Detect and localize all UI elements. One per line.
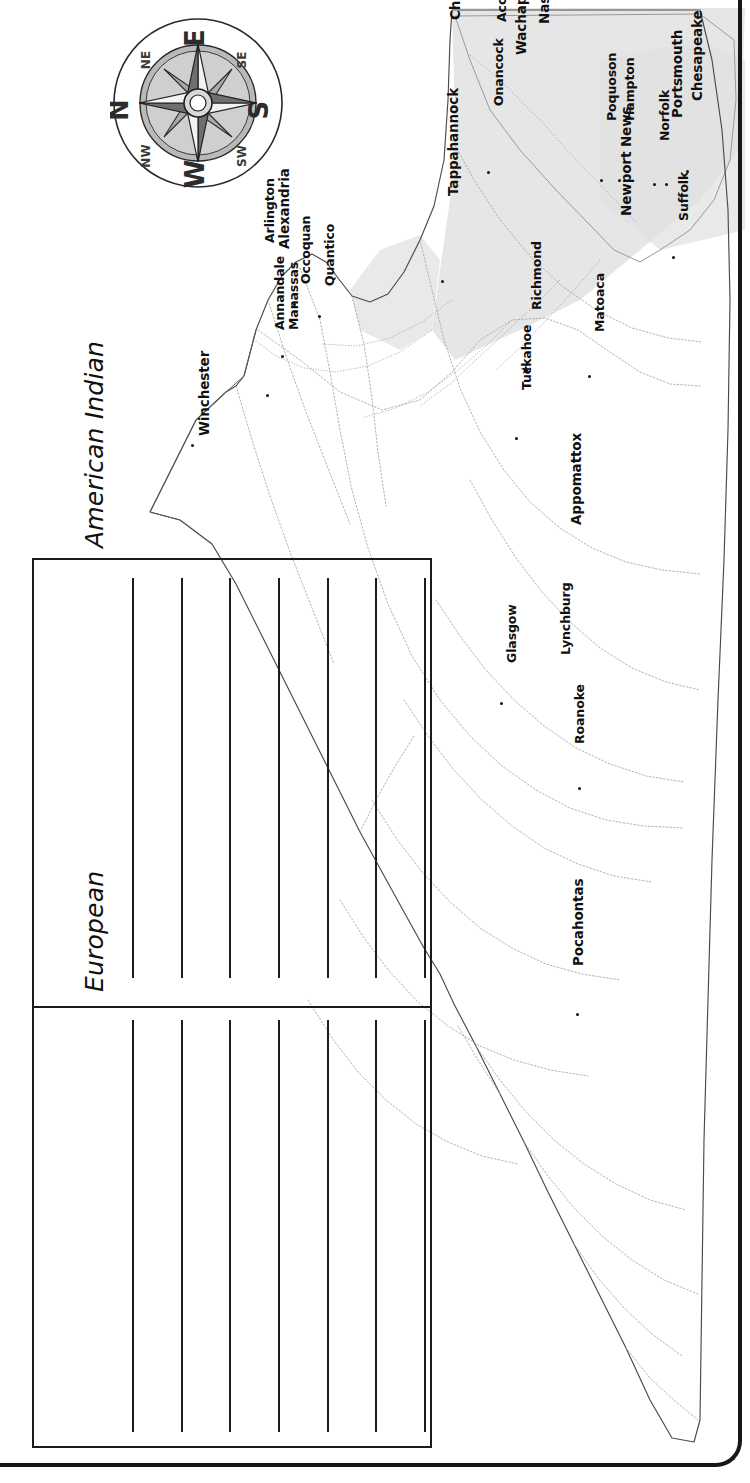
- vocabulary-answer-box[interactable]: American Indian European: [32, 558, 432, 1448]
- compass-label-e: E: [180, 29, 210, 47]
- city-label-occoquan: Occoquan: [298, 216, 313, 284]
- city-marker-dot: [576, 1013, 579, 1016]
- city-label-appomattox: Appomattox: [568, 433, 584, 525]
- compass-label-s: S: [244, 101, 274, 120]
- city-label-poquoson: Poquoson: [604, 53, 619, 121]
- city-label-lynchburg: Lynchburg: [558, 582, 573, 655]
- writing-line-european-3[interactable]: [229, 1020, 231, 1432]
- compass-rose: N E S W NE SE SW NW: [110, 14, 286, 192]
- city-label-accomac: Accomac: [494, 0, 509, 22]
- city-label-roanoke: Roanoke: [572, 684, 587, 744]
- city-marker-dot: [266, 394, 269, 397]
- city-marker-dot: [653, 183, 656, 186]
- city-marker-dot: [578, 787, 581, 790]
- compass-label-nw: NW: [139, 144, 153, 167]
- city-marker-dot: [672, 256, 675, 259]
- compass-label-se: SE: [235, 52, 249, 69]
- city-label-wachapreague: Wachapreague: [513, 0, 529, 55]
- city-label-chesapeake: Chesapeake: [689, 10, 705, 101]
- city-label-glasgow: Glasgow: [504, 604, 519, 663]
- city-label-pocahontas: Pocahontas: [570, 879, 586, 966]
- city-marker-dot: [618, 179, 621, 182]
- city-marker-dot: [281, 355, 284, 358]
- city-label-onancock: Onancock: [491, 38, 506, 106]
- city-marker-dot: [500, 702, 503, 705]
- writing-line-american-indian-6[interactable]: [375, 578, 377, 978]
- city-label-nassawadox: Nassawadox: [536, 0, 552, 24]
- writing-line-american-indian-2[interactable]: [181, 578, 183, 978]
- writing-line-american-indian-5[interactable]: [327, 578, 329, 978]
- compass-label-n: N: [110, 99, 134, 121]
- section-label-american-indian: American Indian: [80, 341, 109, 548]
- box-divider: [34, 1006, 430, 1008]
- writing-line-european-1[interactable]: [132, 1020, 134, 1432]
- city-marker-dot: [588, 375, 591, 378]
- worksheet-page: N E S W NE SE SW NW WinchesterAnnandaleA…: [0, 0, 750, 1483]
- city-marker-dot: [191, 444, 194, 447]
- city-label-newport-news: Newport News: [618, 107, 634, 216]
- capital-marker-star: ★: [520, 364, 531, 375]
- city-label-alexandria: Alexandria: [276, 168, 292, 249]
- city-marker-dot: [600, 179, 603, 182]
- city-marker-dot: [665, 183, 668, 186]
- city-label-tuckahoe: Tuckahoe: [519, 325, 534, 390]
- compass-label-w: W: [180, 160, 210, 189]
- writing-line-american-indian-7[interactable]: [424, 578, 426, 978]
- writing-line-european-4[interactable]: [278, 1020, 280, 1432]
- writing-line-american-indian-4[interactable]: [278, 578, 280, 978]
- city-marker-dot: [293, 303, 296, 306]
- city-label-quantico: Quantico: [322, 224, 337, 286]
- compass-label-ne: NE: [139, 51, 153, 69]
- city-marker-dot: [487, 171, 490, 174]
- city-label-annandale: Annandale: [272, 256, 287, 330]
- city-label-matoaca: Matoaca: [592, 273, 607, 332]
- city-label-richmond: Richmond: [529, 241, 544, 310]
- writing-line-american-indian-3[interactable]: [229, 578, 231, 978]
- city-marker-dot: [318, 315, 321, 318]
- section-label-european: European: [80, 871, 109, 992]
- writing-line-american-indian-1[interactable]: [132, 578, 134, 978]
- city-label-winchester: Winchester: [196, 351, 212, 436]
- city-label-arlington: Arlington: [262, 178, 277, 243]
- city-label-portsmouth: Portsmouth: [669, 30, 685, 118]
- city-label-chincoteague: Chincoteague: [447, 0, 463, 20]
- city-label-hampton: Hampton: [622, 57, 637, 121]
- city-label-tappahannock: Tappahannock: [445, 88, 461, 196]
- city-marker-dot: [441, 280, 444, 283]
- writing-line-european-7[interactable]: [424, 1020, 426, 1432]
- city-marker-dot: [515, 437, 518, 440]
- writing-line-european-5[interactable]: [327, 1020, 329, 1432]
- city-label-suffolk: Suffolk: [676, 172, 691, 221]
- writing-line-european-6[interactable]: [375, 1020, 377, 1432]
- compass-label-sw: SW: [235, 145, 249, 167]
- writing-line-european-2[interactable]: [181, 1020, 183, 1432]
